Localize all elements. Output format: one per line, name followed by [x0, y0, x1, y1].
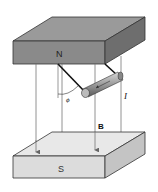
- current-rod: [82, 72, 124, 98]
- south-pole-label: S: [58, 164, 64, 174]
- current-label: I: [123, 91, 128, 101]
- north-pole-label: N: [56, 49, 63, 59]
- north-magnet: [13, 17, 145, 64]
- south-magnet: [13, 132, 145, 178]
- magnetic-force-diagram: N S B I ϕ: [0, 0, 158, 192]
- field-label: B: [98, 122, 104, 131]
- angle-label: ϕ: [66, 96, 70, 104]
